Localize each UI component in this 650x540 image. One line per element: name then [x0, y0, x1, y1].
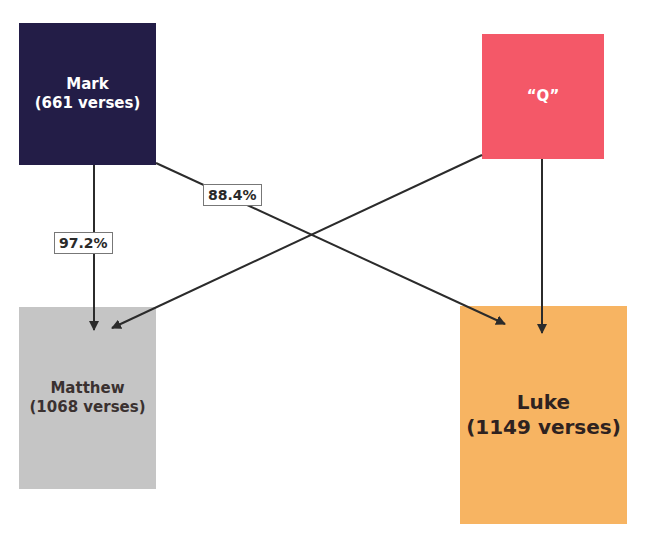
q-node: “Q”: [482, 34, 604, 159]
mark-node: Mark (661 verses): [19, 23, 156, 165]
luke-verses: (1149 verses): [466, 415, 621, 440]
matthew-name: Matthew: [29, 379, 145, 398]
q-name: “Q”: [527, 87, 559, 106]
luke-name: Luke: [466, 390, 621, 415]
luke-node: Luke (1149 verses): [460, 306, 627, 524]
edge-q-matthew: [112, 155, 482, 328]
matthew-verses: (1068 verses): [29, 398, 145, 417]
edge-label-mark-luke: 88.4%: [203, 184, 262, 206]
mark-name: Mark: [35, 75, 141, 94]
matthew-node: Matthew (1068 verses): [19, 307, 156, 489]
edge-label-mark-matthew: 97.2%: [54, 232, 113, 254]
mark-verses: (661 verses): [35, 94, 141, 113]
